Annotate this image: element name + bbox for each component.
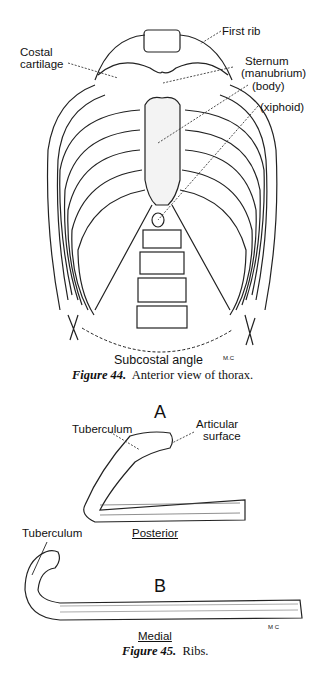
panel-a-letter: A: [154, 402, 166, 423]
manubrium-label: (manubrium): [241, 67, 306, 79]
panel-b-tuberculum-label: Tuberculum: [22, 527, 82, 539]
panel-a-tuberculum-label: Tuberculum: [72, 423, 132, 435]
figure-44-text: Anterior view of thorax.: [132, 368, 254, 382]
articular-surface-label-line2: surface: [203, 430, 241, 442]
medial-label: Medial: [138, 630, 172, 642]
panel-b-letter: B: [154, 576, 166, 597]
posterior-label: Posterior: [132, 527, 178, 539]
figure-44-number: Figure 44.: [72, 368, 126, 382]
figure-45-caption: Figure 45. Ribs.: [122, 644, 209, 659]
subcostal-angle-label: Subcostal angle: [114, 354, 203, 366]
xiphoid-label: (xiphoid): [260, 101, 304, 113]
figure-44-caption: Figure 44. Anterior view of thorax.: [72, 368, 253, 383]
articular-surface-label-line1: Articular: [196, 418, 238, 430]
body-label: (body): [252, 80, 285, 92]
first-rib-label: First rib: [222, 25, 260, 37]
costal-cartilage-label-line1: Costal: [20, 46, 53, 58]
costal-cartilage-label-line2: cartilage: [20, 58, 63, 70]
sternum-label: Sternum: [245, 55, 288, 67]
figure-45-number: Figure 45.: [122, 644, 176, 658]
panel-b-initials: M C: [268, 621, 279, 633]
illustrator-initials: M.C: [223, 352, 234, 364]
figure-45-text: Ribs.: [182, 644, 208, 658]
